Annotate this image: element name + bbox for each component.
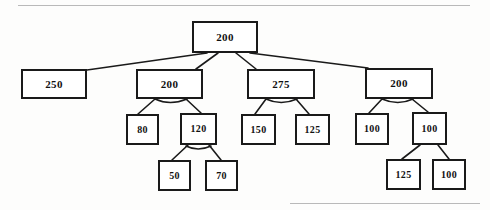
tree-diagram: 2002502002752008012015012510010050701251… bbox=[0, 0, 490, 210]
tree-edge bbox=[255, 99, 266, 114]
tree-node-label: 200 bbox=[390, 78, 407, 89]
tree-node-100[interactable]: 100 bbox=[432, 159, 466, 190]
tree-edge bbox=[369, 99, 382, 113]
tree-node-50[interactable]: 50 bbox=[158, 160, 191, 191]
tree-node-150[interactable]: 150 bbox=[241, 114, 276, 145]
tree-node-200[interactable]: 200 bbox=[192, 21, 258, 53]
tree-node-label: 80 bbox=[137, 125, 148, 135]
tree-edge bbox=[196, 53, 218, 69]
tree-node-100[interactable]: 100 bbox=[355, 113, 389, 145]
scan-line bbox=[18, 5, 470, 6]
tree-edge bbox=[412, 99, 428, 112]
tree-edge bbox=[402, 145, 420, 159]
tree-edge bbox=[438, 145, 449, 159]
tree-node-label: 120 bbox=[191, 124, 207, 134]
tree-arc bbox=[266, 99, 297, 103]
tree-edge bbox=[250, 53, 368, 68]
tree-node-200[interactable]: 200 bbox=[136, 69, 203, 99]
tree-node-125[interactable]: 125 bbox=[295, 114, 330, 145]
tree-node-label: 275 bbox=[272, 79, 289, 90]
tree-edge bbox=[186, 99, 201, 113]
tree-edge bbox=[296, 99, 309, 114]
tree-node-120[interactable]: 120 bbox=[180, 113, 217, 145]
tree-node-label: 100 bbox=[441, 170, 457, 180]
tree-node-100[interactable]: 100 bbox=[412, 112, 447, 145]
tree-arc bbox=[382, 99, 413, 103]
tree-edge bbox=[87, 53, 207, 70]
tree-node-200[interactable]: 200 bbox=[365, 68, 433, 99]
tree-arc bbox=[186, 146, 211, 149]
tree-node-label: 125 bbox=[396, 170, 412, 180]
tree-node-80[interactable]: 80 bbox=[126, 114, 159, 145]
tree-node-250[interactable]: 250 bbox=[21, 69, 87, 99]
tree-node-label: 100 bbox=[364, 124, 380, 134]
tree-node-70[interactable]: 70 bbox=[205, 160, 238, 191]
tree-node-label: 250 bbox=[45, 79, 62, 90]
tree-edge bbox=[209, 145, 221, 160]
tree-node-275[interactable]: 275 bbox=[247, 69, 315, 99]
tree-node-label: 100 bbox=[422, 124, 438, 134]
tree-edge bbox=[236, 53, 256, 69]
tree-node-label: 200 bbox=[161, 79, 178, 90]
tree-node-label: 125 bbox=[305, 125, 321, 135]
tree-edge bbox=[172, 145, 188, 160]
tree-arc bbox=[155, 99, 187, 103]
tree-node-label: 50 bbox=[169, 171, 180, 181]
tree-node-label: 200 bbox=[216, 32, 233, 43]
scan-line bbox=[290, 203, 480, 204]
tree-node-125[interactable]: 125 bbox=[386, 159, 421, 190]
tree-edge bbox=[138, 99, 155, 114]
tree-node-label: 70 bbox=[216, 171, 227, 181]
tree-node-label: 150 bbox=[251, 125, 267, 135]
